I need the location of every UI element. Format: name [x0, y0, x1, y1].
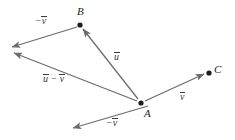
point-dot-b	[77, 22, 82, 27]
vector-label-u-text: u	[114, 51, 119, 62]
point-label-a: A	[144, 108, 151, 119]
point-label-c: C	[214, 64, 221, 75]
vector-lines	[12, 27, 204, 128]
vector-line-u	[83, 29, 138, 99]
vector-label-u-minus-v-v: v	[60, 73, 64, 84]
vector-line-v-right	[145, 74, 204, 101]
vector-label-v-right-text: v	[180, 91, 184, 102]
vector-label-minus-v-bottom: −v	[106, 117, 117, 128]
vector-points	[77, 22, 211, 105]
vector-label-u-minus-v-u: u	[43, 73, 48, 84]
vector-label-v-right: v	[180, 91, 184, 102]
point-dot-c	[206, 70, 211, 75]
vector-label-u-minus-v: u − v	[43, 73, 64, 84]
minus-sign-top: −	[35, 16, 42, 26]
vector-label-minus-v-top-text: v	[42, 15, 46, 26]
minus-sign-middle: −	[48, 74, 60, 84]
vector-label-u: u	[114, 51, 119, 62]
point-label-b: B	[77, 6, 84, 17]
minus-sign-bottom: −	[106, 118, 113, 128]
vector-label-minus-v-top: −v	[35, 15, 46, 26]
point-dot-a	[138, 100, 143, 105]
vector-figure: B A C u −v u − v v −v	[0, 0, 235, 140]
vector-line-minus-v-top	[12, 27, 77, 47]
vector-label-minus-v-bottom-text: v	[113, 117, 117, 128]
